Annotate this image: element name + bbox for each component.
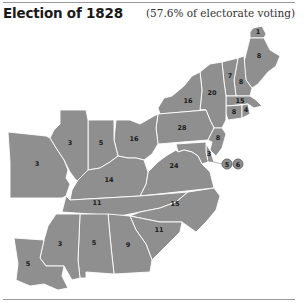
- label-illinois: 3: [68, 139, 73, 147]
- label-louisiana: 5: [26, 260, 31, 268]
- label-south-carolina: 11: [154, 226, 164, 234]
- label-ohio: 16: [129, 135, 139, 143]
- label-north-carolina: 15: [170, 200, 180, 208]
- label-kentucky: 14: [104, 176, 114, 184]
- label-maine-north: 1: [256, 28, 261, 36]
- label-massachusetts: 15: [235, 97, 245, 105]
- label-georgia: 9: [126, 241, 131, 249]
- label-new-york-west: 16: [183, 97, 193, 105]
- label-indiana: 5: [99, 139, 104, 147]
- label-alabama: 5: [92, 239, 97, 247]
- label-vermont: 7: [228, 72, 233, 80]
- label-maryland-a: 5: [225, 161, 230, 169]
- label-missouri: 3: [35, 160, 40, 168]
- label-tennessee: 11: [92, 199, 102, 207]
- label-new-jersey: 8: [216, 134, 221, 142]
- label-connecticut: 8: [232, 108, 237, 116]
- state-new-york-west: [158, 72, 206, 114]
- bottom-rule: [3, 299, 295, 300]
- label-maryland-b: 6: [236, 161, 241, 169]
- label-maine: 8: [257, 52, 262, 60]
- state-maine: [244, 38, 280, 88]
- label-virginia: 24: [169, 162, 179, 170]
- label-rhode-island: 4: [244, 106, 249, 114]
- election-map: 1 8 8 7 15 8 4 20 16 28 8 3 5 6 24 16 5 …: [0, 0, 304, 303]
- label-pennsylvania: 28: [177, 124, 187, 132]
- label-mississippi: 3: [58, 240, 63, 248]
- label-delaware: 3: [207, 150, 212, 158]
- label-new-york-east: 20: [207, 89, 217, 97]
- label-new-hampshire: 8: [239, 78, 244, 86]
